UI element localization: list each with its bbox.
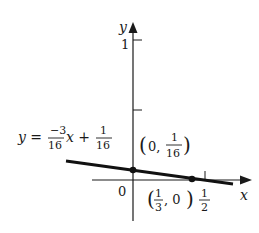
svg-text:(: ( [139, 133, 147, 157]
point-y-intercept [130, 167, 137, 174]
svg-text:0,: 0, [148, 139, 160, 154]
svg-text:−3: −3 [50, 124, 66, 137]
origin-label: 0 [118, 184, 126, 199]
svg-text:1: 1 [171, 131, 178, 144]
svg-text:, 0: , 0 [164, 192, 181, 207]
svg-text:y =: y = [17, 129, 42, 145]
equation-label: y = −3 16 x + 1 16 [17, 124, 112, 152]
y-tick-label-1: 1 [121, 37, 129, 52]
x-axis-arrow-icon [240, 176, 252, 185]
svg-text:3: 3 [155, 201, 162, 214]
svg-text:1: 1 [100, 124, 107, 137]
x-tick-label-half: 1 2 [199, 187, 210, 214]
svg-text:2: 2 [201, 201, 208, 214]
svg-text:): ) [186, 187, 194, 211]
svg-text:(: ( [147, 187, 155, 211]
svg-text:1: 1 [201, 187, 208, 200]
svg-text:16: 16 [96, 139, 110, 152]
y-axis-arrow-icon [129, 22, 138, 33]
line-graph-diagram: y 1 x 1 2 0 y = −3 16 x + 1 16 ( 0, 1 16… [0, 0, 259, 233]
x-axis-label: x [240, 187, 248, 203]
point-label-x-intercept: ( 1 3 , 0 ) [147, 187, 194, 214]
point-label-y-intercept: ( 0, 1 16 ) [139, 131, 191, 160]
svg-text:16: 16 [48, 139, 62, 152]
svg-text:1: 1 [155, 187, 162, 200]
svg-text:x +: x + [66, 129, 90, 145]
svg-text:16: 16 [166, 147, 180, 160]
point-x-intercept [189, 176, 196, 183]
svg-text:): ) [183, 133, 191, 157]
y-axis-label: y [118, 19, 128, 35]
